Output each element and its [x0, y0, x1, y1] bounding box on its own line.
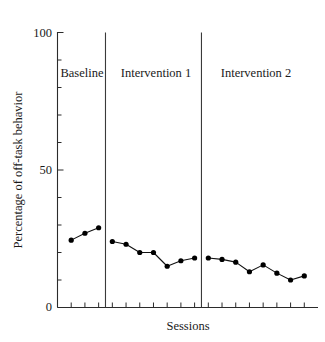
- data-point: [123, 242, 128, 247]
- data-point: [274, 271, 279, 276]
- data-point: [151, 250, 156, 255]
- data-point: [247, 269, 252, 274]
- data-point: [302, 273, 307, 278]
- data-point: [110, 239, 115, 244]
- y-tick-label-100: 100: [33, 26, 52, 40]
- phase-label-intervention-2: Intervention 2: [221, 66, 291, 80]
- data-point: [178, 258, 183, 263]
- data-point: [96, 225, 101, 230]
- data-point: [192, 255, 197, 260]
- data-point: [69, 238, 74, 243]
- x-axis-title: Sessions: [166, 319, 209, 333]
- phase-label-intervention-1: Intervention 1: [121, 66, 191, 80]
- data-point: [261, 262, 266, 267]
- chart-canvas: 100 50 0 Percentage of off-task behavior…: [0, 0, 325, 342]
- data-point: [219, 257, 224, 262]
- data-point: [206, 255, 211, 260]
- data-point: [137, 250, 142, 255]
- x-axis-ticks: [71, 303, 304, 308]
- data-point: [165, 264, 170, 269]
- single-subject-line-chart: 100 50 0 Percentage of off-task behavior…: [0, 0, 325, 342]
- data-point: [82, 231, 87, 236]
- y-tick-label-0: 0: [46, 300, 52, 314]
- y-axis-title: Percentage of off-task behavior: [11, 91, 25, 249]
- y-tick-label-50: 50: [40, 163, 53, 177]
- phase-label-baseline: Baseline: [60, 66, 103, 80]
- data-point: [288, 277, 293, 282]
- data-point: [233, 260, 238, 265]
- data-series-group: [69, 225, 307, 282]
